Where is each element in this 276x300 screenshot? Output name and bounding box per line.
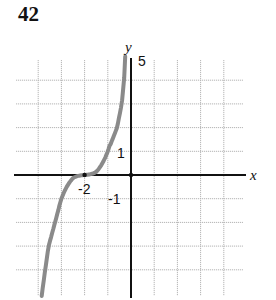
y-tick-label-5: 5: [138, 53, 146, 69]
point-marker: [129, 173, 133, 177]
grid: [16, 60, 243, 296]
point-marker: [82, 173, 86, 177]
y-axis-label: y: [123, 39, 132, 55]
x-axis-label: x: [249, 167, 257, 183]
graph: y x 5 1 -2 -1: [0, 0, 276, 300]
x-tick-label-neg2: -2: [78, 181, 91, 197]
y-tick-label-neg1: -1: [108, 191, 121, 207]
y-tick-label-1: 1: [117, 145, 125, 161]
